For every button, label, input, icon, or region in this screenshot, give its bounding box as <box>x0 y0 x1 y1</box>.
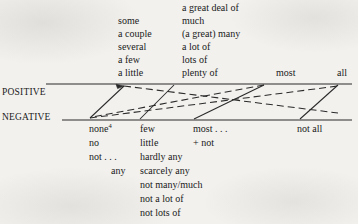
positive-term-several: several <box>118 42 146 52</box>
negative-term-not-all: not all <box>297 124 322 134</box>
diagonal-most-to-mostnot <box>92 85 264 117</box>
negative-term-not-many-much: not many/much <box>140 180 203 190</box>
positive-term-lots-of: lots of <box>182 55 207 65</box>
positive-term-a-few: a few <box>118 55 140 65</box>
positive-term-all: all <box>337 68 347 78</box>
positive-term-some: some <box>118 16 139 26</box>
negative-term-few: few <box>140 124 155 134</box>
footnote-marker-4: 4 <box>108 122 111 129</box>
positive-term-much: much <box>182 16 204 26</box>
arrowhead-alittle <box>116 84 124 88</box>
positive-term-a-lot-of: a lot of <box>182 42 210 52</box>
positive-term-plenty-of: plenty of <box>182 68 218 78</box>
positive-term-a-great-deal-of: a great deal of <box>182 3 239 13</box>
quantifier-square-diagram <box>0 0 358 224</box>
negative-term-scarcely-any: scarcely any <box>140 166 190 176</box>
negative-term-any: any <box>111 166 125 176</box>
positive-term-most: most <box>276 68 295 78</box>
axis-label-positive: POSITIVE <box>2 88 46 98</box>
negative-term-none-text: none <box>89 123 108 134</box>
negative-term-not-lots-of: not lots of <box>140 208 181 218</box>
positive-term-a-little: a little <box>118 68 143 78</box>
connector-mostnot-to-most <box>194 85 264 119</box>
negative-term-hardly-any: hardly any <box>140 152 183 162</box>
axis-label-negative: NEGATIVE <box>2 113 51 123</box>
negative-term-plus-not: + not <box>193 138 214 148</box>
negative-term-no: no <box>89 138 99 148</box>
negative-term-most-ellipsis: most . . . <box>193 124 227 134</box>
connector-none-to-alittle <box>90 86 124 118</box>
connector-notall-to-all <box>300 85 338 119</box>
scanned-figure-page: POSITIVE NEGATIVE some a couple several … <box>0 0 358 224</box>
negative-term-little: little <box>140 138 158 148</box>
positive-term-a-great-many: (a great) many <box>182 29 240 39</box>
negative-term-none: none4 <box>89 124 112 134</box>
negative-term-not-a-lot-of: not a lot of <box>140 194 184 204</box>
negative-term-not-ellipsis: not . . . <box>89 152 117 162</box>
diagonal-none-to-all <box>90 86 338 118</box>
positive-term-a-couple: a couple <box>118 29 152 39</box>
